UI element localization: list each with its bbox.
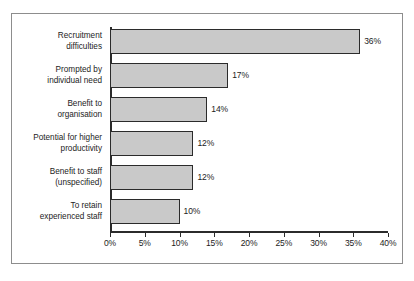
bar-value-label: 36%: [364, 36, 381, 46]
x-axis-tick: [249, 233, 250, 237]
bar[interactable]: [110, 97, 207, 122]
bar-value-label: 14%: [211, 104, 228, 114]
x-axis-tick-label: 40%: [368, 238, 408, 248]
category-label: Recruitment difficulties: [58, 31, 106, 52]
x-axis-tick: [214, 233, 215, 237]
category-label: Benefit to organisation: [57, 99, 106, 120]
category-label-row: Benefit to organisation: [0, 97, 106, 122]
bar-value-label: 12%: [197, 172, 214, 182]
category-label: Benefit to staff (unspecified): [50, 167, 106, 188]
category-label: Potential for higher productivity: [33, 133, 106, 154]
category-label-row: Recruitment difficulties: [0, 29, 106, 54]
category-label: To retain experienced staff: [40, 201, 106, 222]
category-label-row: Potential for higher productivity: [0, 131, 106, 156]
category-label-row: Prompted by individual need: [0, 63, 106, 88]
bar[interactable]: [110, 165, 193, 190]
x-axis-tick: [110, 233, 111, 237]
x-axis-tick: [284, 233, 285, 237]
category-label-row: To retain experienced staff: [0, 199, 106, 224]
x-axis-tick: [319, 233, 320, 237]
bar[interactable]: [110, 131, 193, 156]
bar-value-label: 10%: [184, 206, 201, 216]
bar-value-label: 12%: [197, 138, 214, 148]
bar-value-label: 17%: [232, 70, 249, 80]
plot-area: 0%5%10%15%20%25%30%35%40% 36%17%14%12%12…: [0, 0, 414, 281]
x-axis-tick: [388, 233, 389, 237]
category-label: Prompted by individual need: [47, 65, 106, 86]
chart-figure: 0%5%10%15%20%25%30%35%40% 36%17%14%12%12…: [0, 0, 414, 281]
x-axis-tick: [145, 233, 146, 237]
bar[interactable]: [110, 29, 360, 54]
category-label-row: Benefit to staff (unspecified): [0, 165, 106, 190]
bar[interactable]: [110, 199, 180, 224]
x-axis-tick: [180, 233, 181, 237]
bar[interactable]: [110, 63, 228, 88]
x-axis-tick: [353, 233, 354, 237]
